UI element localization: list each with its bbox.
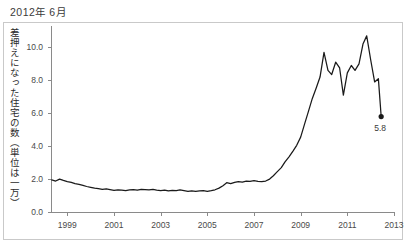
final-value-annotation: 5.8 bbox=[374, 123, 386, 133]
chart-figure: 2012年 6月 差押えになった住宅の数（単位は一万） 0.02.04.06.0… bbox=[0, 0, 408, 242]
series-plot-area bbox=[0, 0, 408, 242]
foreclosure-line-series bbox=[52, 36, 381, 192]
final-point-marker bbox=[379, 114, 384, 119]
